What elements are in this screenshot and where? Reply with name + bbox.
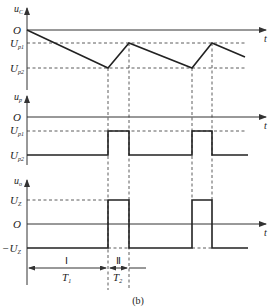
region-ii-label: Ⅱ bbox=[116, 255, 121, 266]
waveform-diagram: uC t O Up1 Up2 up t O Up1 Up2 uo t UZ O … bbox=[0, 0, 275, 308]
t1-label: T1 bbox=[62, 271, 71, 284]
interval-annotations: Ⅰ Ⅱ T1 T2 bbox=[29, 255, 146, 284]
uo-uz-label: UZ bbox=[10, 194, 22, 207]
up-waveform bbox=[27, 131, 248, 155]
up-origin-label: O bbox=[13, 111, 21, 123]
panel-up: up t O Up1 Up2 bbox=[10, 91, 267, 165]
up-up1-label: Up1 bbox=[10, 124, 24, 137]
region-i-label: Ⅰ bbox=[65, 255, 68, 266]
figure-caption: (b) bbox=[132, 295, 144, 307]
up-t-label: t bbox=[264, 120, 267, 131]
uc-y-label: uC bbox=[14, 3, 24, 15]
uc-origin-label: O bbox=[13, 24, 21, 36]
uc-t-label: t bbox=[264, 33, 267, 44]
uo-y-label: uo bbox=[14, 175, 22, 187]
up-y-label: up bbox=[14, 91, 22, 103]
t2-label: T2 bbox=[113, 271, 122, 284]
uc-up2-label: Up2 bbox=[10, 62, 24, 75]
panel-uc: uC t O Up1 Up2 bbox=[10, 3, 267, 90]
guide-lines bbox=[108, 43, 212, 290]
uo-origin-label: O bbox=[13, 218, 21, 230]
uc-up1-label: Up1 bbox=[10, 37, 24, 50]
up-up2-label: Up2 bbox=[10, 149, 24, 162]
uo-neg-uz-label: −UZ bbox=[2, 242, 21, 255]
uo-t-label: t bbox=[264, 227, 267, 238]
